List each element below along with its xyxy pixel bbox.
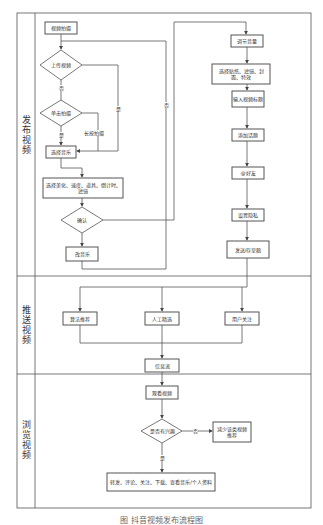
edge-label-upload-no: 否 [59,85,64,91]
edge-label-long-press: 长按拍摄 [84,130,104,136]
decision-upload-video: 上传视频 [46,62,76,68]
decision-interested: 是否有兴趣 [145,428,179,434]
node-info-feed: 信息流 [145,359,179,372]
edge-label-confirm-no: 否 [164,102,169,108]
node-change-music: 改音乐 [66,247,98,261]
node-select-music: 选择音乐 [46,146,76,158]
node-watch-video: 观看视频 [146,386,178,399]
edge-label-tap-yes: 是 [59,132,64,138]
node-select-stickers: 选择贴纸、滤镜、封面、特效 [214,65,268,83]
edge-label-upload-yes: 是 [116,106,121,112]
figure-caption: 图 抖音视频发布流程图 [0,514,323,525]
edge-label-interest-yes: 是 [160,455,165,461]
node-input-title: 输入视频标题 [233,92,263,106]
node-publish-draft: 发送/存草稿 [229,242,267,257]
node-manual-select: 人工精选 [145,312,179,325]
node-user-follow: 用户关注 [225,312,259,325]
node-adjust-volume: 调节音量 [231,35,263,47]
edge-label-interest-no: 否 [193,428,198,434]
lane-label-publish: 发布视频 [21,115,31,155]
node-video-shoot: 视频拍摄 [45,22,77,34]
node-add-topic: 添加话题 [232,129,264,141]
node-privacy: 设置隐私 [232,209,264,221]
decision-confirm: 确认 [70,217,94,223]
node-at-friend: @好友 [232,167,264,179]
node-select-effects: 选择美化、速度、道具、倒计时、滤镜 [45,179,121,197]
lane-label-push: 推送视频 [21,305,31,345]
node-reduce-recommend: 减少该类视频推荐 [215,423,249,441]
node-interactions: 转发、评论、关注、下载、查看音乐/个人资料 [109,474,213,490]
decision-tap-shoot: 单击拍摄 [46,110,76,116]
node-algorithm-recommend: 算法推荐 [63,312,97,325]
lane-label-browse: 浏览视频 [21,420,31,460]
